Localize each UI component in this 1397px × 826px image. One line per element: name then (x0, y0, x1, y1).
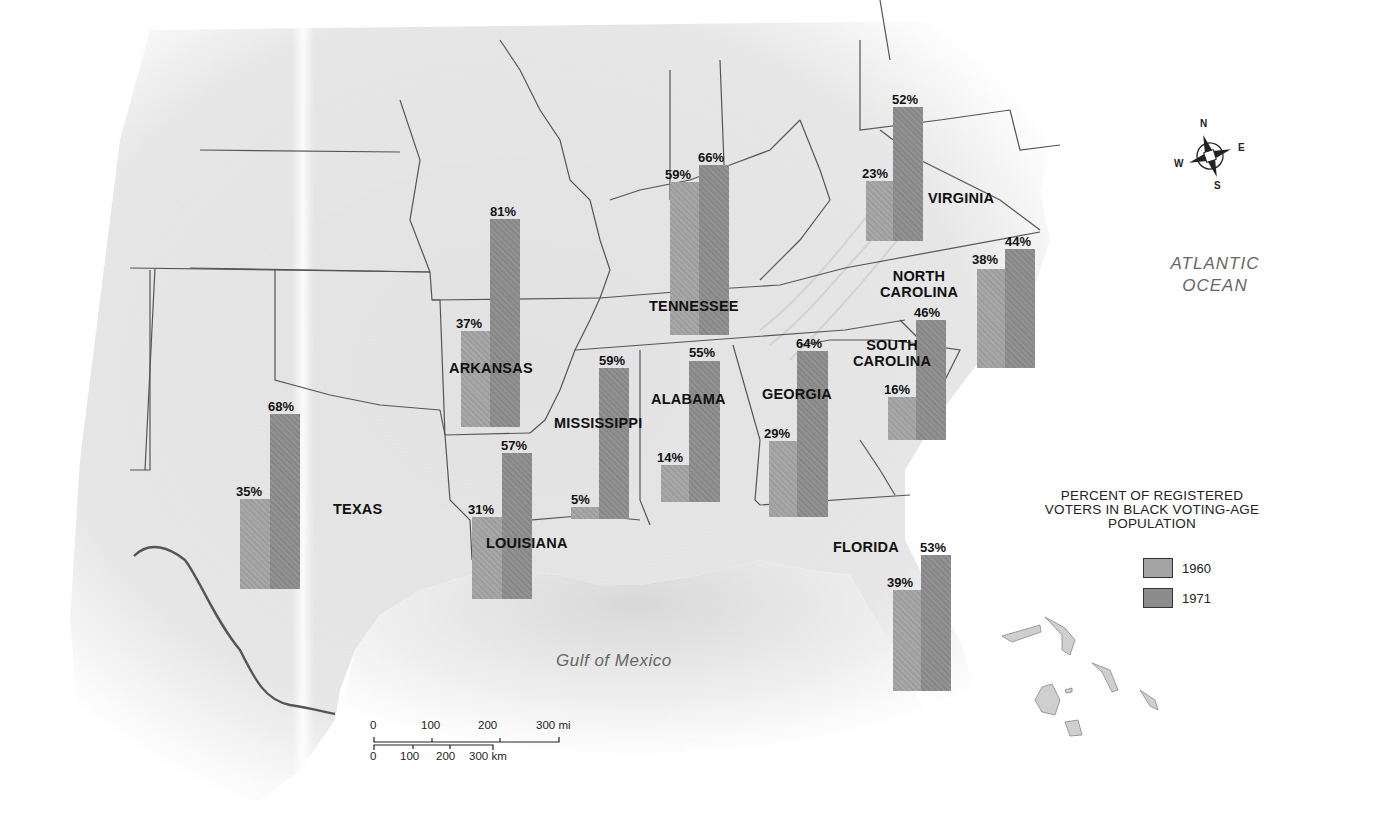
legend-label-1960: 1960 (1182, 561, 1211, 576)
scale-km-100: 100 (400, 750, 419, 762)
atlantic-ocean-label-line1: ATLANTIC (1160, 253, 1270, 275)
bar-1971-north-carolina (1005, 249, 1035, 368)
compass-icon (1170, 118, 1250, 194)
scale-km-200: 200 (436, 750, 455, 762)
legend-title: PERCENT OF REGISTERED VOTERS IN BLACK VO… (1036, 489, 1268, 531)
bar-1971-alabama (689, 361, 720, 502)
scale-mi-200: 200 (478, 719, 497, 731)
compass-e: E (1238, 142, 1245, 153)
state-label-north-carolina-line2: CAROLINA (873, 284, 965, 300)
compass-s: S (1214, 180, 1221, 191)
value-1971-tennessee: 66% (698, 151, 724, 164)
value-1960-louisiana: 31% (468, 503, 494, 516)
state-label-georgia: GEORGIA (762, 386, 832, 402)
scale-mi-300: 300 mi (536, 719, 571, 731)
compass-rose: N E S W (1170, 118, 1250, 194)
southern-us-map: 35% 68% 37% 81% 31% 57% 5% 59% 14% 55% 2… (0, 0, 1397, 826)
bar-1960-mississippi (571, 507, 599, 519)
legend-swatch-1960 (1143, 558, 1173, 578)
bar-1960-arkansas (461, 331, 490, 427)
value-1960-alabama: 14% (657, 451, 683, 464)
state-label-arkansas: ARKANSAS (449, 360, 533, 376)
bar-1971-louisiana (502, 453, 532, 599)
atlantic-ocean-label-line2: OCEAN (1160, 275, 1270, 297)
legend-title-line3: POPULATION (1036, 517, 1268, 531)
state-label-north-carolina-line1: NORTH (873, 268, 965, 284)
compass-n: N (1200, 118, 1207, 129)
value-1960-texas: 35% (236, 485, 262, 498)
bar-1971-virginia (893, 107, 923, 241)
state-label-alabama: ALABAMA (651, 391, 726, 407)
bar-1960-georgia (769, 441, 797, 517)
scale-mi-100: 100 (421, 719, 440, 731)
bar-1960-virginia (866, 181, 893, 241)
state-label-tennessee: TENNESSEE (649, 298, 739, 314)
state-label-louisiana: LOUISIANA (486, 535, 568, 551)
value-1960-mississippi: 5% (571, 493, 590, 506)
bar-1960-alabama (661, 465, 689, 502)
atlantic-ocean-label: ATLANTIC OCEAN (1160, 253, 1270, 297)
scale-km-0: 0 (370, 750, 376, 762)
legend-label-1971: 1971 (1182, 591, 1211, 606)
compass-w: W (1174, 158, 1183, 169)
state-label-florida: FLORIDA (833, 539, 899, 555)
value-1960-arkansas: 37% (456, 317, 482, 330)
bar-1960-south-carolina (888, 397, 916, 440)
value-1971-south-carolina: 46% (914, 306, 940, 319)
value-1971-arkansas: 81% (490, 205, 516, 218)
value-1960-north-carolina: 38% (972, 253, 998, 266)
bar-1960-florida (893, 590, 921, 691)
state-label-south-carolina: SOUTH CAROLINA (846, 337, 938, 369)
legend-swatch-1971 (1143, 588, 1173, 608)
bar-1971-florida (921, 555, 951, 691)
value-1971-virginia: 52% (892, 93, 918, 106)
value-1971-louisiana: 57% (501, 439, 527, 452)
state-label-south-carolina-line2: CAROLINA (846, 353, 938, 369)
value-1960-florida: 39% (887, 576, 913, 589)
scale-mi-0: 0 (370, 719, 376, 731)
value-1960-tennessee: 59% (665, 168, 691, 181)
state-label-mississippi: MISSISSIPPI (554, 415, 642, 431)
value-1971-texas: 68% (268, 400, 294, 413)
bar-1960-north-carolina (977, 269, 1005, 368)
legend-title-line1: PERCENT OF REGISTERED (1036, 489, 1268, 503)
legend-title-line2: VOTERS IN BLACK VOTING-AGE (1036, 503, 1268, 517)
state-label-north-carolina: NORTH CAROLINA (873, 268, 965, 300)
value-1971-north-carolina: 44% (1005, 235, 1031, 248)
bar-1960-texas (240, 499, 270, 589)
gulf-of-mexico-label: Gulf of Mexico (556, 651, 672, 671)
value-1971-georgia: 64% (796, 337, 822, 350)
value-1960-south-carolina: 16% (884, 383, 910, 396)
bar-1971-texas (270, 414, 300, 589)
value-1971-mississippi: 59% (599, 354, 625, 367)
bar-1971-georgia (797, 351, 828, 517)
scale-bar-lines (370, 732, 570, 752)
bar-1960-louisiana (472, 517, 502, 599)
state-label-south-carolina-line1: SOUTH (846, 337, 938, 353)
bar-1971-arkansas (490, 219, 520, 427)
state-label-virginia: VIRGINIA (928, 190, 994, 206)
value-1960-georgia: 29% (764, 427, 790, 440)
value-1971-alabama: 55% (689, 346, 715, 359)
value-1960-virginia: 23% (862, 167, 888, 180)
scale-km-300: 300 km (469, 750, 507, 762)
state-label-texas: TEXAS (333, 501, 382, 517)
value-1971-florida: 53% (920, 541, 946, 554)
bar-1971-mississippi (599, 368, 629, 519)
